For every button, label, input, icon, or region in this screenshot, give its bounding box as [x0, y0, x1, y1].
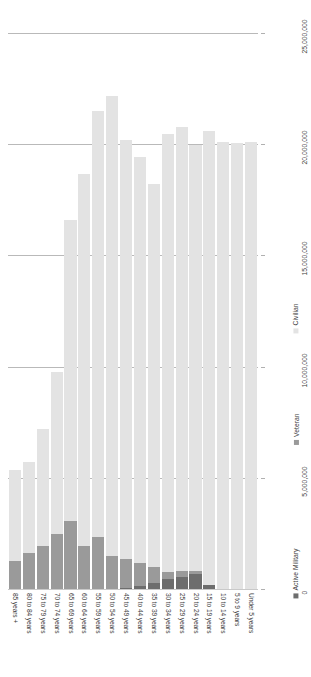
category-tick: 20 to 24 years: [189, 593, 201, 677]
bar-column[interactable]: [148, 33, 160, 589]
bar-segment-civilian: [37, 429, 49, 546]
category-label: 35 to 39 years: [150, 593, 157, 633]
category-tick: 85 years +: [9, 593, 21, 677]
bar-column[interactable]: [92, 33, 104, 589]
category-label: 80 to 84 years: [25, 593, 32, 633]
legend-swatch-icon: [294, 328, 299, 333]
bar-segment-civilian: [162, 134, 174, 572]
value-tick-label: 10,000,000: [305, 370, 311, 404]
category-tick: Under 5 years: [245, 593, 257, 677]
bar-column[interactable]: [64, 33, 76, 589]
bar-segment-civilian: [245, 142, 257, 589]
bar-column[interactable]: [203, 33, 215, 589]
value-tick-label: 15,000,000: [305, 259, 311, 293]
bar-column[interactable]: [78, 33, 90, 589]
value-tick-text: 20,000,000: [301, 131, 308, 165]
bar-segment-veteran: [162, 572, 174, 579]
bar-segment-civilian: [64, 220, 76, 521]
value-tick-label: 0: [305, 593, 311, 597]
bar-segment-active-military: [120, 588, 132, 589]
value-tick-label: 20,000,000: [305, 148, 311, 182]
category-tick: 70 to 74 years: [51, 593, 63, 677]
bar-segment-veteran: [78, 546, 90, 589]
category-label: 50 to 54 years: [109, 593, 116, 633]
legend-label: Active Military: [293, 549, 300, 591]
category-axis: 85 years +80 to 84 years75 to 79 years70…: [8, 593, 258, 677]
category-label: 10 to 14 years: [220, 593, 227, 633]
category-tick: 35 to 39 years: [148, 593, 160, 677]
category-tick: 55 to 59 years: [92, 593, 104, 677]
gridline-0: [8, 589, 258, 590]
bar-segment-civilian: [231, 143, 243, 589]
bar-segment-civilian: [148, 184, 160, 566]
category-label: 85 years +: [11, 593, 18, 623]
bar-segment-civilian: [134, 157, 146, 563]
bar-segment-veteran: [9, 561, 21, 589]
bar-column[interactable]: [189, 33, 201, 589]
category-tick: 5 to 9 years: [231, 593, 243, 677]
category-tick: 45 to 49 years: [120, 593, 132, 677]
bar-segment-veteran: [92, 537, 104, 589]
category-label: 55 to 59 years: [95, 593, 102, 633]
bar-segment-veteran: [134, 563, 146, 585]
chart-legend: Active MilitaryVeteranCivilian: [270, 0, 296, 677]
bar-segment-active-military: [176, 577, 188, 589]
value-tick-mark: [261, 33, 265, 34]
category-label: 65 to 69 years: [67, 593, 74, 633]
category-tick: 30 to 34 years: [162, 593, 174, 677]
bar-segment-veteran: [23, 553, 35, 589]
legend-label: Civilian: [293, 304, 300, 326]
bar-column[interactable]: [176, 33, 188, 589]
category-label: 15 to 19 years: [206, 593, 213, 633]
category-tick: 50 to 54 years: [106, 593, 118, 677]
value-tick-mark: [261, 589, 265, 590]
bar-segment-civilian: [9, 470, 21, 561]
bar-segment-civilian: [23, 462, 35, 553]
bar-segment-veteran: [37, 546, 49, 589]
legend-swatch-icon: [294, 440, 299, 445]
category-label: 30 to 34 years: [164, 593, 171, 633]
bar-segment-active-military: [203, 585, 215, 589]
category-label: 5 to 9 years: [234, 593, 241, 626]
category-label: 25 to 29 years: [178, 593, 185, 633]
bar-segment-active-military: [189, 574, 201, 589]
bar-group: [8, 33, 258, 589]
bar-column[interactable]: [217, 33, 229, 589]
bar-column[interactable]: [51, 33, 63, 589]
category-tick: 65 to 69 years: [64, 593, 76, 677]
value-tick-mark: [261, 144, 265, 145]
bar-column[interactable]: [231, 33, 243, 589]
bar-column[interactable]: [106, 33, 118, 589]
bar-column[interactable]: [37, 33, 49, 589]
value-tick-text: 25,000,000: [301, 19, 308, 53]
bar-column[interactable]: [162, 33, 174, 589]
bar-segment-civilian: [78, 174, 90, 546]
bar-segment-veteran: [51, 534, 63, 589]
legend-swatch-icon: [294, 593, 299, 598]
value-tick-label: 25,000,000: [305, 37, 311, 71]
category-label: 70 to 74 years: [53, 593, 60, 633]
category-tick: 60 to 64 years: [78, 593, 90, 677]
legend-item[interactable]: Civilian: [293, 304, 300, 334]
legend-item[interactable]: Veteran: [293, 414, 300, 445]
bar-column[interactable]: [120, 33, 132, 589]
bar-segment-civilian: [176, 127, 188, 571]
bar-column[interactable]: [245, 33, 257, 589]
legend-item[interactable]: Active Military: [293, 549, 300, 599]
value-tick-mark: [261, 478, 265, 479]
bar-column[interactable]: [134, 33, 146, 589]
legend-label: Veteran: [293, 414, 300, 437]
bar-segment-civilian: [51, 372, 63, 534]
bar-segment-civilian: [189, 145, 201, 572]
category-tick: 80 to 84 years: [23, 593, 35, 677]
bar-column[interactable]: [9, 33, 21, 589]
value-tick-mark: [261, 255, 265, 256]
category-label: Under 5 years: [248, 593, 255, 633]
bar-segment-active-military: [162, 579, 174, 589]
category-tick: 15 to 19 years: [203, 593, 215, 677]
category-tick: 75 to 79 years: [37, 593, 49, 677]
value-tick-text: 10,000,000: [301, 353, 308, 387]
bar-segment-civilian: [120, 140, 132, 560]
bar-column[interactable]: [23, 33, 35, 589]
category-label: 45 to 49 years: [123, 593, 130, 633]
